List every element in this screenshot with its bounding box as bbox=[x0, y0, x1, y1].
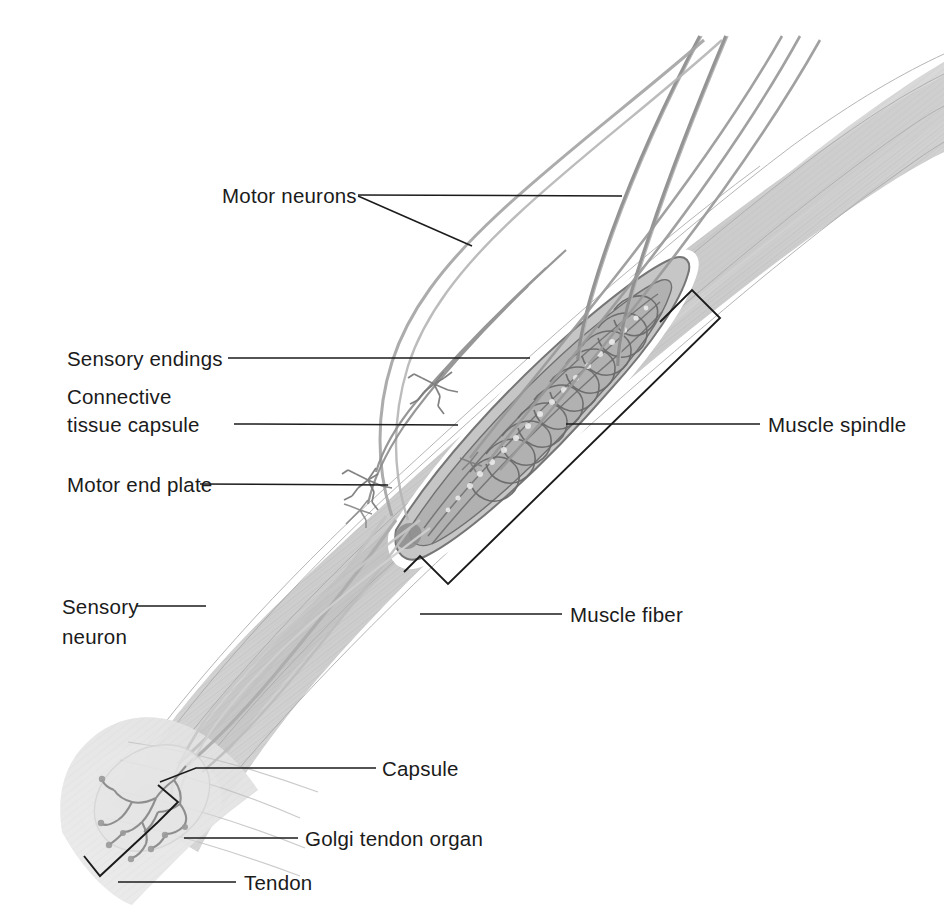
label-connective-line2: tissue capsule bbox=[67, 413, 200, 436]
label-golgi-tendon-organ: Golgi tendon organ bbox=[305, 827, 483, 850]
leader-connective-tissue-capsule bbox=[234, 424, 458, 425]
label-tendon: Tendon bbox=[244, 871, 312, 894]
motor-end-plate-1 bbox=[408, 372, 458, 414]
label-capsule: Capsule bbox=[382, 757, 459, 780]
anatomical-figure: Motor neurons Sensory endings Connective… bbox=[0, 0, 944, 915]
diagram-canvas: Motor neurons Sensory endings Connective… bbox=[0, 0, 944, 915]
label-sensory-line2: neuron bbox=[62, 625, 127, 648]
muscle-spindle-assembly bbox=[391, 253, 695, 566]
label-connective-line1: Connective bbox=[67, 385, 172, 408]
label-sensory-endings: Sensory endings bbox=[67, 347, 223, 370]
label-muscle-spindle: Muscle spindle bbox=[768, 413, 906, 436]
leader-motor-neurons-a bbox=[358, 195, 622, 196]
label-motor-neurons: Motor neurons bbox=[222, 184, 357, 207]
label-muscle-fiber: Muscle fiber bbox=[570, 603, 683, 626]
leader-motor-end-plate bbox=[200, 484, 388, 485]
label-sensory-line1: Sensory bbox=[62, 595, 139, 618]
leader-motor-neurons-b bbox=[358, 196, 472, 246]
label-motor-end-plate: Motor end plate bbox=[67, 473, 212, 496]
